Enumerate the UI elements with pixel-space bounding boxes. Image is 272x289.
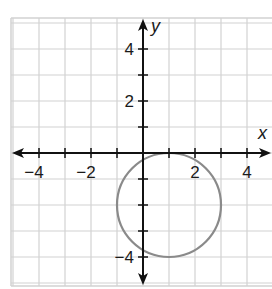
x-axis-label: x [257,123,268,143]
x-tick-label: −4 [24,163,43,182]
y-tick-label: −4 [115,248,134,267]
axes [12,19,271,285]
x-tick-label: 4 [242,163,251,182]
y-tick-label: 4 [125,40,134,59]
y-tick-label: 2 [125,92,134,111]
y-axis-label: y [149,16,161,36]
x-tick-label: 2 [190,163,199,182]
x-tick-label: −2 [76,163,95,182]
coordinate-plane: −4−22442−4 x y [0,0,272,289]
